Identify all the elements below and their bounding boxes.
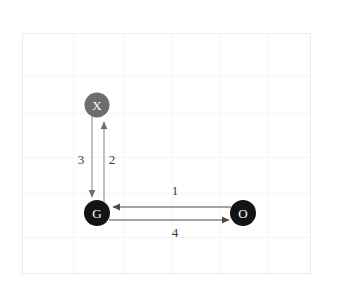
- graph-canvas: 3 2 1 4 X G O: [0, 0, 338, 297]
- node-x[interactable]: X: [85, 93, 110, 118]
- edge-1-label: 1: [172, 183, 179, 198]
- figure-background: [0, 0, 338, 297]
- edge-2-label: 2: [109, 152, 116, 167]
- edge-3-label: 3: [78, 152, 85, 167]
- edge-4-label: 4: [172, 225, 179, 240]
- node-x-label: X: [92, 98, 102, 113]
- node-o-label: O: [238, 206, 247, 221]
- node-o[interactable]: O: [230, 200, 256, 226]
- graph-figure: 3 2 1 4 X G O: [0, 0, 338, 297]
- node-g[interactable]: G: [84, 200, 110, 226]
- node-g-label: G: [92, 206, 101, 221]
